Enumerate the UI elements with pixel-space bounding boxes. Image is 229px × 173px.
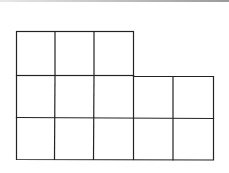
grid-line: [17, 118, 214, 119]
grid-line: [94, 76, 95, 160]
grid-line: [55, 76, 56, 160]
grid-row-1-outline: [17, 32, 134, 76]
grid-diagram: [0, 0, 229, 173]
